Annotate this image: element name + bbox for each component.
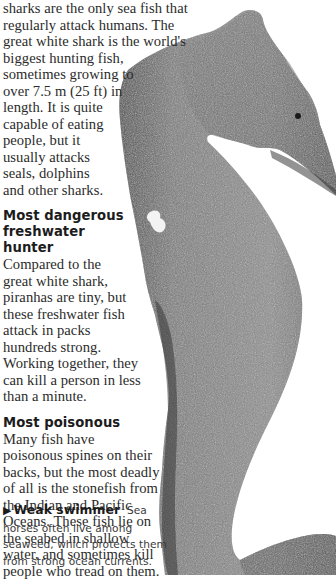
heading-line: hunter bbox=[3, 240, 233, 256]
caption-first-line: ▶Weak swimmer Sea bbox=[3, 502, 223, 520]
text-line: attack in packs bbox=[3, 322, 233, 339]
text-line: great white shark, bbox=[3, 273, 233, 290]
text-line: people, but it bbox=[3, 132, 233, 149]
caption-line: from strong ocean currents. bbox=[3, 553, 223, 570]
section-heading: Most poisonous bbox=[3, 415, 233, 431]
text-line: backs, but the most deadly bbox=[3, 464, 233, 481]
text-line: over 7.5 m (25 ft) in bbox=[3, 83, 233, 100]
intro-paragraph: sharks are the only sea fish that regula… bbox=[3, 0, 233, 198]
seahorse-eye bbox=[295, 113, 301, 119]
triangle-right-icon: ▶ bbox=[3, 504, 12, 517]
text-line: length. It is quite bbox=[3, 99, 233, 116]
text-line: these freshwater fish bbox=[3, 306, 233, 323]
heading-line: freshwater bbox=[3, 224, 233, 240]
text-line: piranhas are tiny, but bbox=[3, 289, 233, 306]
caption-text: Sea bbox=[127, 504, 147, 516]
heading-line: Most poisonous bbox=[3, 415, 233, 431]
text-line: seals, dolphins bbox=[3, 165, 233, 182]
caption-title: Weak swimmer bbox=[14, 502, 121, 517]
text-line: sometimes growing to bbox=[3, 66, 233, 83]
heading-line: Most dangerous bbox=[3, 208, 233, 224]
caption-line: horses often live among bbox=[3, 520, 223, 537]
text-line: Working together, they bbox=[3, 355, 233, 372]
text-line: Many fish have bbox=[3, 431, 233, 448]
text-line: can kill a person in less bbox=[3, 372, 233, 389]
text-line: than a minute. bbox=[3, 388, 233, 405]
text-line: and other sharks. bbox=[3, 182, 233, 199]
text-line: biggest hunting fish, bbox=[3, 50, 233, 67]
text-line: regularly attack humans. The bbox=[3, 17, 233, 34]
image-caption: ▶Weak swimmer Sea horses often live amon… bbox=[3, 502, 223, 569]
text-line: sharks are the only sea fish that bbox=[3, 0, 233, 17]
text-line: poisonous spines on their bbox=[3, 447, 233, 464]
text-line: of all is the stonefish from bbox=[3, 480, 233, 497]
text-line: great white shark is the world's bbox=[3, 33, 233, 50]
section-body: Compared to the great white shark, piran… bbox=[3, 256, 233, 405]
article-text: sharks are the only sea fish that regula… bbox=[3, 0, 233, 579]
text-line: Compared to the bbox=[3, 256, 233, 273]
section-heading: Most dangerous freshwater hunter bbox=[3, 208, 233, 256]
section-freshwater-hunter: Most dangerous freshwater hunter Compare… bbox=[3, 208, 233, 405]
caption-line: seaweed, which protects them bbox=[3, 536, 223, 553]
text-line: usually attacks bbox=[3, 149, 233, 166]
text-line: capable of eating bbox=[3, 116, 233, 133]
text-line: hundreds strong. bbox=[3, 339, 233, 356]
